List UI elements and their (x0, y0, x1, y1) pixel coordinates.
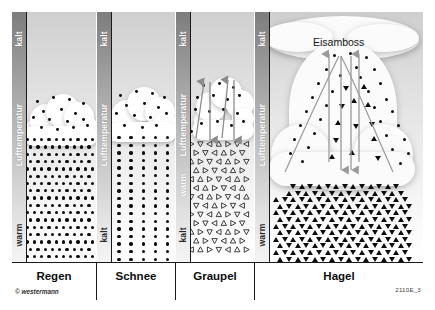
hailstone (282, 224, 288, 229)
rain-droplet (47, 211, 50, 214)
hailstone (381, 204, 387, 209)
caption-hagel: Hagel (255, 270, 423, 282)
snow-flake (166, 235, 169, 238)
hailstone (406, 204, 412, 209)
rain-droplet (47, 196, 50, 199)
hailstone (320, 243, 326, 248)
hailstone (303, 217, 309, 222)
snow-flake (129, 235, 132, 238)
snow-flake (129, 144, 132, 147)
snow-flake (129, 182, 132, 185)
snow-flake (117, 258, 120, 261)
snow-flake (154, 144, 157, 147)
snow-flake (142, 242, 145, 245)
hailstone (299, 224, 305, 229)
hail-embryo (317, 82, 320, 85)
snow-flake (166, 144, 169, 147)
hailstone (338, 243, 344, 248)
hailstone (286, 230, 292, 235)
rain-droplet (65, 189, 68, 192)
rain-droplet (69, 167, 72, 170)
snow-flake (166, 166, 169, 169)
hailstone (369, 122, 375, 127)
hailstone (368, 197, 374, 202)
snow-flake (142, 189, 145, 192)
hailstone (406, 217, 412, 222)
hailstone (342, 197, 348, 202)
snow-flake (129, 212, 132, 215)
hailstone (316, 224, 322, 229)
hailstone (286, 191, 292, 196)
snow-flake (166, 174, 169, 177)
rain-droplet (40, 240, 43, 243)
hailstone (372, 257, 378, 262)
hailstone (338, 257, 344, 262)
rain-droplet (29, 204, 32, 207)
hailstone (295, 230, 301, 235)
snow-flake (129, 151, 132, 154)
snow-flake (165, 112, 168, 115)
rain-droplet (42, 110, 45, 113)
rain-droplet (84, 196, 87, 199)
hailstone (402, 197, 408, 202)
rain-droplet (44, 160, 47, 163)
hailstone (312, 191, 318, 196)
hailstone (273, 224, 279, 229)
rain-droplet (55, 240, 58, 243)
hailstone (385, 197, 391, 202)
hailstone (307, 237, 313, 242)
rain-droplet (91, 240, 94, 243)
hailstone (295, 243, 301, 248)
rain-droplet (62, 255, 65, 258)
rain-droplet (68, 98, 71, 101)
snow-flake (154, 151, 157, 154)
snow-flake (163, 96, 166, 99)
rain-droplet (52, 96, 55, 99)
snow-flake (129, 227, 132, 230)
hailstone (346, 257, 352, 262)
hailstone (381, 257, 387, 262)
hailstone (338, 191, 344, 196)
snow-flake (143, 102, 146, 105)
rain-droplet (58, 145, 61, 148)
hailstone (342, 184, 348, 189)
hailstone (372, 230, 378, 235)
rain-droplet (33, 167, 36, 170)
hailstone (316, 250, 322, 255)
scale-graupel-mid-label: warm (178, 174, 188, 197)
rain-droplet (36, 100, 39, 103)
hailstone (312, 257, 318, 262)
rain-droplet (55, 255, 58, 258)
hailstone (338, 230, 344, 235)
snow-flake (166, 151, 169, 154)
snow-flake (129, 174, 132, 177)
hail-embryo (403, 138, 406, 141)
rain-droplet (40, 211, 43, 214)
hail-embryo (379, 82, 382, 85)
hailstone (335, 120, 341, 125)
rain-droplet (69, 153, 72, 156)
hailstone (307, 197, 313, 202)
snow-flake (166, 159, 169, 162)
snow-flake (117, 220, 120, 223)
hailstone (355, 257, 361, 262)
rain-droplet (29, 145, 32, 148)
hailstone (398, 191, 404, 196)
rain-droplet (36, 204, 39, 207)
caption-schnee: Schnee (97, 270, 175, 282)
rain-droplet (91, 196, 94, 199)
snow-flake (117, 174, 120, 177)
rain-droplet (72, 126, 75, 129)
hailstone (376, 250, 382, 255)
snow-flake (129, 136, 132, 139)
hailstone (346, 230, 352, 235)
rain-droplet (55, 167, 58, 170)
hailstone (343, 86, 349, 91)
snow-flake (129, 258, 132, 261)
hailstone (398, 243, 404, 248)
snow-flake (149, 116, 152, 119)
snow-flake (133, 114, 136, 117)
rain-droplet (58, 160, 61, 163)
rain-droplet (80, 218, 83, 221)
snow-flake (166, 212, 169, 215)
